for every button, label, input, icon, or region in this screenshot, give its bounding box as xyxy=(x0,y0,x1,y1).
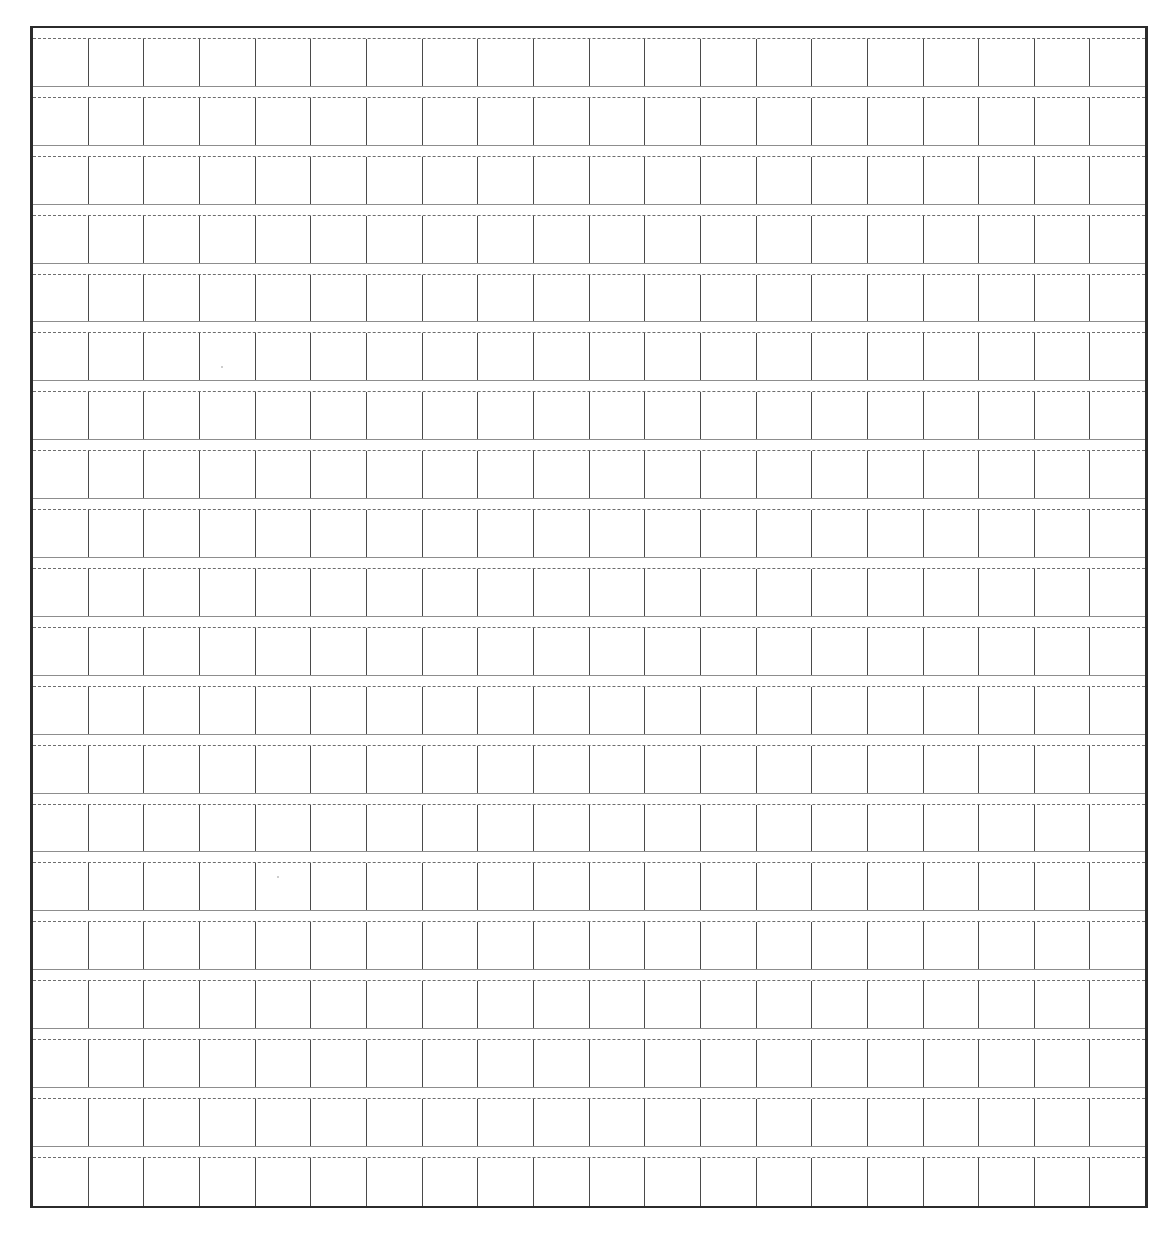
grid-cell[interactable] xyxy=(812,1158,868,1206)
grid-cell[interactable] xyxy=(367,1099,423,1146)
grid-cell[interactable] xyxy=(144,157,200,204)
grid-cell[interactable] xyxy=(256,216,312,263)
grid-cell[interactable] xyxy=(645,628,701,675)
grid-cell[interactable] xyxy=(868,216,924,263)
grid-cell[interactable] xyxy=(89,157,145,204)
grid-cell[interactable] xyxy=(144,39,200,86)
grid-cell[interactable] xyxy=(33,1040,89,1087)
grid-cell[interactable] xyxy=(200,392,256,439)
grid-cell[interactable] xyxy=(924,510,980,557)
grid-cell[interactable] xyxy=(423,981,479,1028)
grid-cell[interactable] xyxy=(200,510,256,557)
grid-cell[interactable] xyxy=(256,1099,312,1146)
grid-cell[interactable] xyxy=(534,922,590,969)
grid-cell[interactable] xyxy=(200,451,256,498)
grid-cell[interactable] xyxy=(1090,981,1145,1028)
grid-cell[interactable] xyxy=(590,39,646,86)
grid-cell[interactable] xyxy=(645,392,701,439)
grid-cell[interactable] xyxy=(144,392,200,439)
grid-cell[interactable] xyxy=(701,392,757,439)
grid-cell[interactable] xyxy=(33,805,89,852)
grid-cell[interactable] xyxy=(367,275,423,322)
grid-cell[interactable] xyxy=(1035,333,1091,380)
grid-cell[interactable] xyxy=(757,275,813,322)
grid-cell[interactable] xyxy=(478,863,534,910)
grid-cell[interactable] xyxy=(423,746,479,793)
grid-cell[interactable] xyxy=(979,216,1035,263)
grid-cell[interactable] xyxy=(200,39,256,86)
grid-cell[interactable] xyxy=(757,687,813,734)
grid-cell[interactable] xyxy=(1090,216,1145,263)
grid-cell[interactable] xyxy=(367,628,423,675)
grid-cell[interactable] xyxy=(701,569,757,616)
grid-cell[interactable] xyxy=(534,98,590,145)
grid-cell[interactable] xyxy=(645,333,701,380)
grid-cell[interactable] xyxy=(33,333,89,380)
grid-cell[interactable] xyxy=(89,1099,145,1146)
grid-cell[interactable] xyxy=(812,392,868,439)
grid-cell[interactable] xyxy=(33,451,89,498)
grid-cell[interactable] xyxy=(757,569,813,616)
grid-cell[interactable] xyxy=(701,451,757,498)
grid-cell[interactable] xyxy=(478,1040,534,1087)
grid-cell[interactable] xyxy=(757,1158,813,1206)
grid-cell[interactable] xyxy=(423,1040,479,1087)
grid-cell[interactable] xyxy=(590,805,646,852)
grid-cell[interactable] xyxy=(256,981,312,1028)
grid-cell[interactable] xyxy=(144,981,200,1028)
grid-cell[interactable] xyxy=(311,216,367,263)
grid-cell[interactable] xyxy=(367,746,423,793)
grid-cell[interactable] xyxy=(645,216,701,263)
grid-cell[interactable] xyxy=(144,275,200,322)
grid-cell[interactable] xyxy=(812,451,868,498)
grid-cell[interactable] xyxy=(256,157,312,204)
grid-cell[interactable] xyxy=(200,569,256,616)
grid-cell[interactable] xyxy=(478,216,534,263)
grid-cell[interactable] xyxy=(423,510,479,557)
grid-cell[interactable] xyxy=(478,39,534,86)
grid-cell[interactable] xyxy=(924,98,980,145)
grid-cell[interactable] xyxy=(144,628,200,675)
grid-cell[interactable] xyxy=(478,628,534,675)
grid-cell[interactable] xyxy=(478,333,534,380)
grid-cell[interactable] xyxy=(367,39,423,86)
grid-cell[interactable] xyxy=(701,687,757,734)
grid-cell[interactable] xyxy=(868,1158,924,1206)
grid-cell[interactable] xyxy=(924,157,980,204)
grid-cell[interactable] xyxy=(534,39,590,86)
grid-cell[interactable] xyxy=(256,1040,312,1087)
grid-cell[interactable] xyxy=(200,981,256,1028)
grid-cell[interactable] xyxy=(89,922,145,969)
grid-cell[interactable] xyxy=(701,1158,757,1206)
grid-cell[interactable] xyxy=(757,981,813,1028)
grid-cell[interactable] xyxy=(645,39,701,86)
grid-cell[interactable] xyxy=(256,392,312,439)
grid-cell[interactable] xyxy=(868,1040,924,1087)
grid-cell[interactable] xyxy=(89,275,145,322)
grid-cell[interactable] xyxy=(534,157,590,204)
grid-cell[interactable] xyxy=(1090,569,1145,616)
grid-cell[interactable] xyxy=(590,863,646,910)
grid-cell[interactable] xyxy=(1035,392,1091,439)
grid-cell[interactable] xyxy=(256,98,312,145)
grid-cell[interactable] xyxy=(144,746,200,793)
grid-cell[interactable] xyxy=(979,1040,1035,1087)
grid-cell[interactable] xyxy=(367,216,423,263)
grid-cell[interactable] xyxy=(1090,157,1145,204)
grid-cell[interactable] xyxy=(757,863,813,910)
grid-cell[interactable] xyxy=(924,687,980,734)
grid-cell[interactable] xyxy=(423,628,479,675)
grid-cell[interactable] xyxy=(33,863,89,910)
grid-cell[interactable] xyxy=(534,1099,590,1146)
grid-cell[interactable] xyxy=(311,510,367,557)
grid-cell[interactable] xyxy=(200,1040,256,1087)
grid-cell[interactable] xyxy=(812,1040,868,1087)
grid-cell[interactable] xyxy=(590,746,646,793)
grid-cell[interactable] xyxy=(534,863,590,910)
grid-cell[interactable] xyxy=(757,392,813,439)
grid-cell[interactable] xyxy=(144,922,200,969)
grid-cell[interactable] xyxy=(144,863,200,910)
grid-cell[interactable] xyxy=(868,922,924,969)
grid-cell[interactable] xyxy=(590,451,646,498)
grid-cell[interactable] xyxy=(812,746,868,793)
